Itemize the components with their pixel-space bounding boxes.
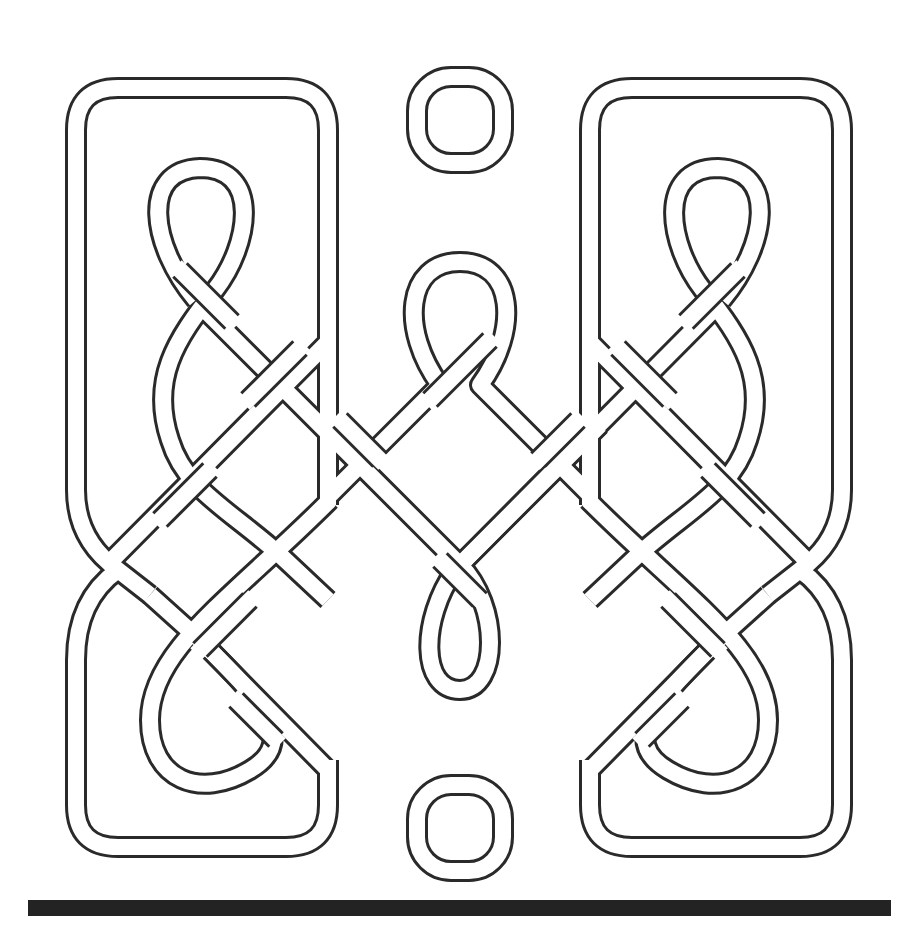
knotwork-canvas [0, 0, 918, 949]
baseline-bar [28, 900, 891, 916]
